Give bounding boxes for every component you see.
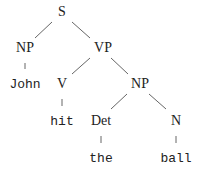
node-v: V xyxy=(57,77,67,91)
edge-vp-np xyxy=(111,58,128,74)
node-word-john: John xyxy=(9,78,40,91)
edge-np-n xyxy=(149,94,166,109)
edge-vp-v xyxy=(72,58,90,74)
node-np-subject: NP xyxy=(16,41,34,55)
node-word-the: the xyxy=(89,152,112,165)
edge-np-det xyxy=(111,94,127,109)
node-n: N xyxy=(171,114,181,128)
node-word-ball: ball xyxy=(160,152,191,165)
node-s: S xyxy=(58,5,66,19)
node-np-object: NP xyxy=(131,77,149,91)
edge-s-vp xyxy=(72,22,90,38)
node-vp: VP xyxy=(94,41,112,55)
parse-tree-diagram: S NP VP John V NP hit Det N the ball xyxy=(0,0,198,169)
node-det: Det xyxy=(91,114,111,128)
node-word-hit: hit xyxy=(50,115,73,128)
edge-s-np xyxy=(35,22,52,38)
